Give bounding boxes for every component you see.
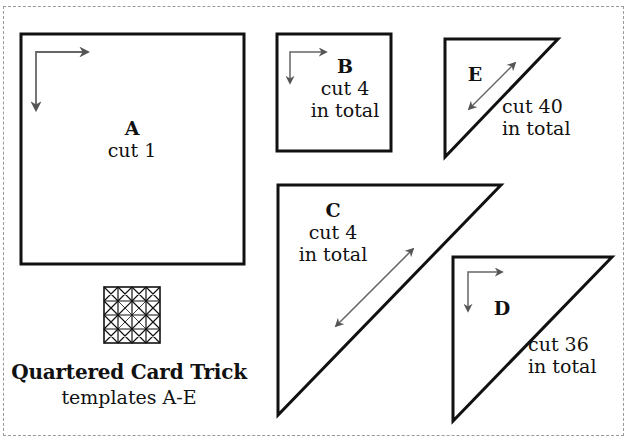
template-b-label: B cut 4 in total: [300, 56, 390, 122]
cut-count: cut 36: [528, 334, 618, 356]
cut-count: cut 4: [300, 78, 390, 100]
template-letter: B: [300, 56, 390, 78]
grain-arrows-icon: [36, 52, 88, 110]
cut-note: in total: [300, 100, 390, 122]
cut-note: in total: [528, 356, 618, 378]
cut-count: cut 1: [108, 139, 157, 161]
cut-note: in total: [283, 244, 383, 266]
template-d-letter-label: D: [490, 298, 514, 320]
template-c-label: C cut 4 in total: [283, 200, 383, 266]
title-line-1: Quartered Card Trick: [0, 360, 258, 384]
template-e-label: cut 40 in total: [502, 96, 582, 140]
template-a-label: A cut 1: [92, 118, 172, 162]
cut-count: cut 40: [502, 96, 582, 118]
diagram-title: Quartered Card Trick templates A-E: [0, 360, 258, 408]
quilt-block-icon: [104, 287, 160, 343]
template-d-label: cut 36 in total: [528, 334, 618, 378]
template-letter: E: [463, 64, 487, 86]
template-letter: D: [490, 298, 514, 320]
cut-note: in total: [502, 118, 582, 140]
template-letter: C: [283, 200, 383, 222]
template-letter: A: [92, 118, 172, 140]
template-e-letter-label: E: [463, 64, 487, 86]
title-line-2: templates A-E: [0, 386, 258, 408]
cut-count: cut 4: [283, 222, 383, 244]
